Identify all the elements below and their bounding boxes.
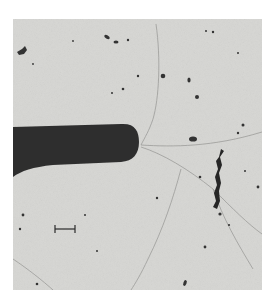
micrograph	[13, 19, 262, 290]
